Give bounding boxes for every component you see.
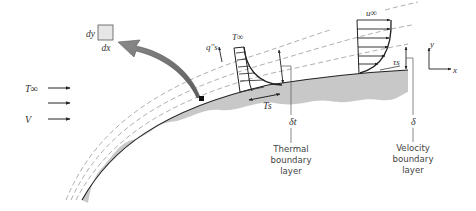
velocity-freestream-label: u∞ xyxy=(366,8,377,18)
y-axis-label: y xyxy=(429,39,434,49)
velocity-caption-line: boundary xyxy=(393,154,434,164)
surface-temperature-label: Ts xyxy=(263,100,272,111)
differential-element-box xyxy=(98,25,113,40)
thermal-thickness-label: δt xyxy=(289,116,297,127)
surface-point-marker xyxy=(199,96,204,101)
velocity-caption-line: Velocity xyxy=(396,143,430,153)
boundary-layer-diagram: dy dx T∞ V q''s T∞ Ts δt Thermal boundar… xyxy=(0,0,476,211)
x-axis-label: x xyxy=(452,65,457,75)
dx-label: dx xyxy=(102,43,112,53)
dy-label: dy xyxy=(86,29,96,39)
thermal-thickness-dimension xyxy=(279,50,283,83)
magnify-curved-arrow xyxy=(118,40,200,98)
freestream-velocity-label: V xyxy=(25,114,33,125)
thermal-profile: T∞ xyxy=(232,32,282,92)
thermal-caption-line: Thermal xyxy=(272,144,308,154)
velocity-profile: u∞ xyxy=(357,8,391,74)
thermal-caption-line: boundary xyxy=(271,155,312,165)
boundary-layer-edge-dashed xyxy=(76,44,408,200)
heat-flux-arrow xyxy=(219,47,222,62)
velocity-thickness-label: δ xyxy=(411,116,416,127)
freestream-temperature-label: T∞ xyxy=(25,83,38,94)
heat-flux-label: q''s xyxy=(206,42,218,52)
boundary-layer-edge-dashed xyxy=(385,2,418,10)
shear-stress-label: τs xyxy=(393,57,400,67)
thermal-freestream-label: T∞ xyxy=(232,32,243,42)
solid-surface-body xyxy=(82,70,408,203)
boundary-layer-edge-dashed xyxy=(71,25,412,200)
thermal-caption-line: layer xyxy=(280,166,302,176)
velocity-caption-line: layer xyxy=(402,165,424,175)
